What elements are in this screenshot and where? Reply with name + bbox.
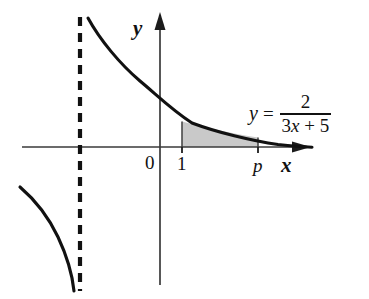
fraction-numerator: 2 xyxy=(297,92,315,113)
tick-label-p: p xyxy=(253,156,263,175)
equation-fraction: 2 3x + 5 xyxy=(280,92,332,136)
graph-canvas xyxy=(0,0,369,299)
denominator-coefficient: 3 xyxy=(282,115,292,136)
equation-equals-sign: = xyxy=(263,103,274,125)
fraction-denominator: 3x + 5 xyxy=(280,115,332,136)
equation-label: y = 2 3x + 5 xyxy=(249,92,331,136)
denominator-constant: 5 xyxy=(320,115,330,136)
y-axis-arrowhead xyxy=(155,12,166,30)
tick-label-one: 1 xyxy=(177,154,187,173)
shaded-area-region xyxy=(182,122,258,148)
origin-label: 0 xyxy=(145,153,155,172)
curve-lower-branch xyxy=(20,187,74,291)
function-graph-figure: y x 0 1 p y = 2 3x + 5 xyxy=(0,0,369,299)
denominator-operator: + xyxy=(304,115,315,136)
x-axis-label: x xyxy=(281,155,292,176)
denominator-variable: x xyxy=(291,115,299,136)
y-axis-label: y xyxy=(133,18,142,39)
equation-left-hand-side: y xyxy=(249,102,258,125)
